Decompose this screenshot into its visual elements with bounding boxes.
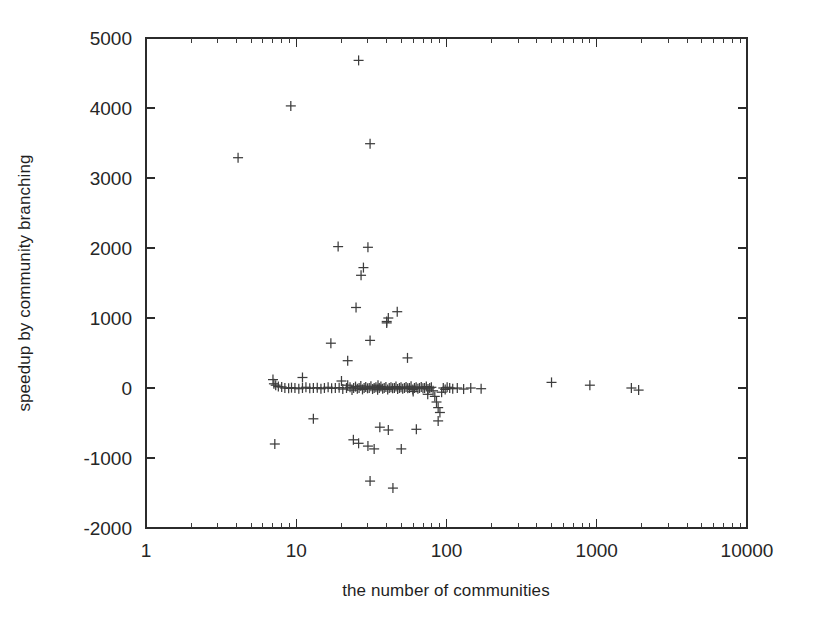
x-tick-label: 10000 bbox=[721, 540, 774, 561]
y-tick-label: 2000 bbox=[90, 238, 132, 259]
data-point bbox=[358, 263, 368, 273]
y-tick-label: 0 bbox=[121, 378, 132, 399]
data-point bbox=[383, 425, 393, 435]
data-point bbox=[382, 318, 392, 328]
scatter-plot: 110100100010000 -2000-100001000200030004… bbox=[0, 0, 815, 620]
data-point bbox=[297, 373, 307, 383]
x-axis-ticks bbox=[146, 38, 747, 528]
y-axis-title: speedup by community branching bbox=[15, 154, 34, 411]
data-point bbox=[466, 383, 476, 393]
x-tick-label: 10 bbox=[286, 540, 307, 561]
plot-frame bbox=[146, 38, 747, 528]
data-point bbox=[547, 377, 557, 387]
x-axis-title: the number of communities bbox=[342, 581, 550, 600]
data-point bbox=[308, 414, 318, 424]
y-tick-label: -2000 bbox=[83, 518, 132, 539]
data-point bbox=[452, 383, 462, 393]
data-point bbox=[634, 385, 644, 395]
y-tick-label: 5000 bbox=[90, 28, 132, 49]
data-point bbox=[433, 416, 443, 426]
data-point bbox=[343, 356, 353, 366]
data-point bbox=[233, 153, 243, 163]
data-point bbox=[336, 376, 346, 386]
x-tick-label: 100 bbox=[431, 540, 463, 561]
data-point bbox=[432, 397, 442, 407]
data-point-markers bbox=[233, 55, 644, 493]
data-point bbox=[626, 383, 636, 393]
data-point bbox=[363, 242, 373, 252]
x-tick-label: 1000 bbox=[576, 540, 618, 561]
data-point bbox=[369, 444, 379, 454]
data-point bbox=[435, 408, 445, 418]
y-tick-label: 1000 bbox=[90, 308, 132, 329]
data-point bbox=[402, 353, 412, 363]
data-point bbox=[365, 139, 375, 149]
data-point bbox=[326, 338, 336, 348]
data-point bbox=[270, 439, 280, 449]
data-point bbox=[388, 483, 398, 493]
data-point bbox=[396, 444, 406, 454]
data-point bbox=[268, 375, 278, 385]
data-point bbox=[354, 55, 364, 65]
data-point bbox=[286, 101, 296, 111]
y-axis-ticks bbox=[146, 38, 747, 528]
y-axis-tick-labels: -2000-1000010002000300040005000 bbox=[83, 28, 132, 539]
data-point bbox=[459, 384, 469, 394]
data-point bbox=[375, 422, 385, 432]
data-point bbox=[365, 335, 375, 345]
data-point bbox=[392, 307, 402, 317]
chart-figure: 110100100010000 -2000-100001000200030004… bbox=[0, 0, 815, 620]
data-point bbox=[585, 380, 595, 390]
data-point bbox=[430, 391, 440, 401]
data-point bbox=[365, 476, 375, 486]
data-point bbox=[356, 270, 366, 280]
x-axis-tick-labels: 110100100010000 bbox=[141, 540, 774, 561]
y-tick-label: 3000 bbox=[90, 168, 132, 189]
data-point bbox=[363, 441, 373, 451]
data-point bbox=[433, 403, 443, 413]
data-point bbox=[333, 242, 343, 252]
data-point bbox=[271, 380, 281, 390]
y-tick-label: -1000 bbox=[83, 448, 132, 469]
y-tick-label: 4000 bbox=[90, 98, 132, 119]
x-tick-label: 1 bbox=[141, 540, 152, 561]
data-point bbox=[411, 424, 421, 434]
data-point bbox=[351, 303, 361, 313]
data-point bbox=[476, 384, 486, 394]
